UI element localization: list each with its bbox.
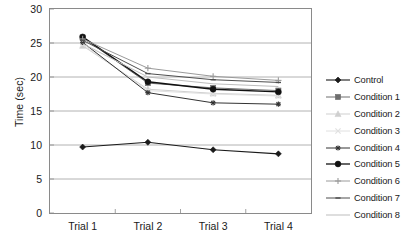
legend-label: Condition 5 xyxy=(351,159,400,169)
data-point-marker xyxy=(275,151,281,157)
data-point-marker xyxy=(145,139,151,145)
legend-item-condition-3[interactable]: Condition 3 xyxy=(325,122,403,139)
legend-item-condition-4[interactable]: Condition 4 xyxy=(325,139,403,156)
x-axis-tick-label: Trial 2 xyxy=(133,220,162,232)
y-axis-tick-label: 20 xyxy=(30,71,42,83)
y-axis-tick-label: 10 xyxy=(30,139,42,151)
data-point-marker xyxy=(210,73,216,79)
data-point-marker xyxy=(335,161,341,167)
data-point-marker xyxy=(145,90,150,95)
legend-marker-icon xyxy=(325,174,351,188)
plot-svg xyxy=(50,9,311,213)
series-line xyxy=(83,142,279,154)
legend-label: Condition 1 xyxy=(351,92,400,102)
data-point-marker xyxy=(335,145,340,150)
x-axis-tick-labels: Trial 1Trial 2Trial 3Trial 4 xyxy=(49,220,312,240)
y-axis-tick-label: 15 xyxy=(30,105,42,117)
legend-label: Condition 2 xyxy=(351,109,400,119)
legend-marker-icon xyxy=(325,107,351,121)
series-line xyxy=(83,38,279,91)
legend-item-condition-5[interactable]: Condition 5 xyxy=(325,156,403,173)
legend-label: Condition 4 xyxy=(351,143,400,153)
y-axis-tick-label: 5 xyxy=(36,173,42,185)
legend-item-condition-1[interactable]: Condition 1 xyxy=(325,89,403,106)
y-axis-tick-label: 30 xyxy=(30,3,42,15)
x-axis-tick-label: Trial 1 xyxy=(68,220,97,232)
series-condition-3 xyxy=(80,42,281,99)
legend-item-condition-6[interactable]: Condition 6 xyxy=(325,173,403,190)
series-condition-4 xyxy=(80,40,281,107)
data-point-marker xyxy=(335,95,340,100)
data-point-marker xyxy=(335,77,341,83)
series-line xyxy=(83,40,279,82)
legend-marker-icon xyxy=(325,90,351,104)
data-point-marker xyxy=(275,89,281,95)
plot-area xyxy=(49,8,312,214)
legend-marker-icon xyxy=(325,208,351,222)
legend-marker-icon xyxy=(325,141,351,155)
chart-legend: ControlCondition 1Condition 2Condition 3… xyxy=(325,72,403,223)
series-line xyxy=(83,39,279,80)
y-axis-tick-labels: 051015202530 xyxy=(0,0,46,247)
legend-marker-icon xyxy=(325,124,351,138)
legend-item-control[interactable]: Control xyxy=(325,72,403,89)
legend-label: Condition 6 xyxy=(351,176,400,186)
series-line xyxy=(83,46,279,96)
data-point-marker xyxy=(145,79,151,85)
x-axis-tick-label: Trial 4 xyxy=(264,220,293,232)
line-chart: Time (sec) 051015202530 Trial 1Trial 2Tr… xyxy=(0,0,403,247)
y-axis-tick-label: 25 xyxy=(30,37,42,49)
legend-marker-icon xyxy=(325,191,351,205)
series-control xyxy=(80,139,282,157)
x-axis-tick-label: Trial 3 xyxy=(199,220,228,232)
y-axis-tick-label: 0 xyxy=(36,207,42,219)
legend-label: Condition 3 xyxy=(351,126,400,136)
legend-label: Condition 7 xyxy=(351,193,400,203)
legend-item-condition-2[interactable]: Condition 2 xyxy=(325,106,403,123)
data-point-marker xyxy=(335,178,341,184)
data-point-marker xyxy=(210,147,216,153)
legend-marker-icon xyxy=(325,157,351,171)
data-point-marker xyxy=(145,65,151,71)
data-point-marker xyxy=(210,86,216,92)
legend-marker-icon xyxy=(325,73,351,87)
data-point-marker xyxy=(276,102,281,107)
data-point-marker xyxy=(211,100,216,105)
legend-item-condition-7[interactable]: Condition 7 xyxy=(325,190,403,207)
legend-item-condition-8[interactable]: Condition 8 xyxy=(325,206,403,223)
legend-label: Condition 8 xyxy=(351,210,400,220)
series-condition-7 xyxy=(80,40,281,82)
legend-label: Control xyxy=(351,75,383,85)
